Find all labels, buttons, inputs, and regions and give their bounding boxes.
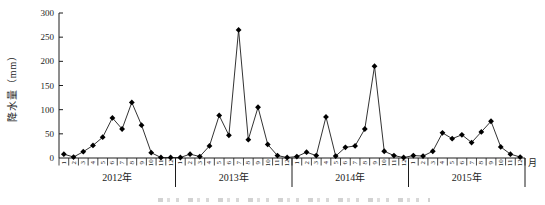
month-tick-label: 3 bbox=[312, 161, 320, 165]
cropped-caption-strip bbox=[158, 198, 430, 202]
x-axis-unit-label: 月 bbox=[528, 156, 537, 169]
year-label: 2012年 bbox=[102, 171, 132, 183]
month-tick-label: 4 bbox=[322, 161, 330, 165]
data-point-marker bbox=[61, 151, 67, 157]
month-tick-label: 5 bbox=[215, 161, 223, 165]
data-point-marker bbox=[449, 136, 455, 142]
data-point-marker bbox=[430, 148, 436, 154]
month-tick-label: 1 bbox=[293, 161, 301, 165]
data-point-marker bbox=[80, 149, 86, 155]
data-point-marker bbox=[139, 122, 145, 128]
data-point-marker bbox=[255, 104, 261, 110]
month-tick-label: 3 bbox=[196, 161, 204, 165]
month-tick-label: 6 bbox=[458, 161, 466, 165]
month-tick-label: 3 bbox=[79, 161, 87, 165]
month-tick-label: 5 bbox=[448, 161, 456, 165]
data-point-marker bbox=[440, 130, 446, 136]
y-axis-tick-label: 100 bbox=[41, 105, 55, 115]
data-point-marker bbox=[381, 148, 387, 154]
data-point-marker bbox=[323, 114, 329, 120]
y-axis-tick-label: 200 bbox=[41, 56, 55, 66]
month-tick-label: 4 bbox=[205, 161, 213, 165]
data-point-marker bbox=[372, 63, 378, 69]
y-axis-tick-label: 300 bbox=[41, 8, 55, 18]
data-point-marker bbox=[245, 137, 251, 143]
month-tick-label: 5 bbox=[332, 161, 340, 165]
precipitation-chart-figure: 0501001502002503001234567891011121234567… bbox=[0, 0, 545, 205]
data-point-marker bbox=[362, 126, 368, 132]
month-tick-label: 10 bbox=[380, 159, 388, 167]
data-point-marker bbox=[177, 155, 183, 161]
month-tick-label: 1 bbox=[409, 161, 417, 165]
y-axis-tick-label: 0 bbox=[50, 153, 55, 163]
data-point-marker bbox=[226, 132, 232, 138]
month-tick-label: 9 bbox=[371, 161, 379, 165]
month-tick-label: 2 bbox=[419, 161, 427, 165]
month-tick-label: 11 bbox=[273, 159, 281, 166]
month-tick-label: 10 bbox=[147, 159, 155, 167]
month-tick-label: 2 bbox=[303, 161, 311, 165]
month-tick-label: 8 bbox=[361, 161, 369, 165]
data-point-marker bbox=[187, 151, 193, 157]
data-point-marker bbox=[71, 154, 77, 160]
data-point-marker bbox=[129, 100, 135, 106]
month-tick-label: 8 bbox=[244, 161, 252, 165]
year-label: 2013年 bbox=[219, 171, 249, 183]
month-tick-label: 9 bbox=[487, 161, 495, 165]
data-point-marker bbox=[236, 27, 242, 33]
data-point-marker bbox=[352, 143, 358, 149]
month-tick-label: 7 bbox=[118, 161, 126, 165]
month-tick-label: 8 bbox=[128, 161, 136, 165]
month-tick-label: 9 bbox=[254, 161, 262, 165]
month-tick-label: 1 bbox=[60, 161, 68, 165]
month-tick-label: 1 bbox=[176, 161, 184, 165]
data-point-marker bbox=[216, 113, 222, 119]
month-tick-label: 7 bbox=[235, 161, 243, 165]
month-tick-label: 11 bbox=[390, 159, 398, 166]
month-tick-label: 6 bbox=[341, 161, 349, 165]
year-label: 2014年 bbox=[335, 171, 365, 183]
month-tick-label: 6 bbox=[108, 161, 116, 165]
month-tick-label: 5 bbox=[99, 161, 107, 165]
y-axis-title: 降水量（mm） bbox=[4, 50, 19, 123]
y-axis-tick-label: 50 bbox=[45, 129, 55, 139]
month-tick-label: 7 bbox=[351, 161, 359, 165]
data-point-marker bbox=[294, 154, 300, 160]
data-point-marker bbox=[304, 149, 310, 155]
month-tick-label: 11 bbox=[506, 159, 514, 166]
month-tick-label: 2 bbox=[186, 161, 194, 165]
month-tick-label: 10 bbox=[264, 159, 272, 167]
y-axis-tick-label: 250 bbox=[41, 32, 55, 42]
month-tick-label: 9 bbox=[138, 161, 146, 165]
month-tick-label: 3 bbox=[429, 161, 437, 165]
y-axis-tick-label: 150 bbox=[41, 81, 55, 91]
month-tick-label: 6 bbox=[225, 161, 233, 165]
month-tick-label: 4 bbox=[438, 161, 446, 165]
month-tick-label: 4 bbox=[89, 161, 97, 165]
data-point-marker bbox=[148, 150, 154, 156]
month-tick-label: 8 bbox=[477, 161, 485, 165]
data-point-marker bbox=[517, 154, 523, 160]
month-tick-label: 10 bbox=[497, 159, 505, 167]
year-label: 2015年 bbox=[452, 171, 482, 183]
precipitation-line-chart: 0501001502002503001234567891011121234567… bbox=[0, 0, 545, 205]
month-tick-label: 7 bbox=[468, 161, 476, 165]
month-tick-label: 2 bbox=[70, 161, 78, 165]
